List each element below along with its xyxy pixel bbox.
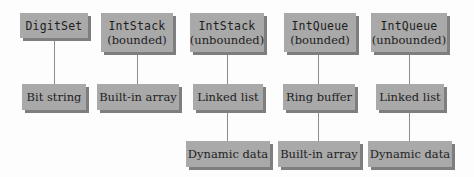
impl-box-bit-string: Bit string <box>22 84 86 110</box>
connector-linkedlist-dynamicdata-2 <box>409 110 410 141</box>
impl-label: Built-in array <box>99 90 177 104</box>
connector-intqueue-bounded-ringbuffer <box>318 52 319 84</box>
impl-box-linked-list-2: Linked list <box>376 84 444 110</box>
adt-name: DigitSet <box>26 19 83 33</box>
adt-box-intqueue-unbounded: IntQueue (unbounded) <box>371 13 447 52</box>
impl-label: Bit string <box>27 90 82 104</box>
underlying-label: Dynamic data <box>188 147 268 161</box>
adt-qualifier: (bounded) <box>107 33 167 47</box>
connector-intqueue-unbounded-linkedlist <box>409 52 410 84</box>
connector-linkedlist-dynamicdata-1 <box>227 110 228 141</box>
adt-qualifier: (bounded) <box>290 33 350 47</box>
adt-box-digitset: DigitSet <box>20 13 88 38</box>
impl-box-ring-buffer: Ring buffer <box>283 84 355 110</box>
connector-intstack-unbounded-linkedlist <box>227 52 228 84</box>
underlying-label: Dynamic data <box>370 147 450 161</box>
diagram-canvas: DigitSet IntStack (bounded) IntStack (un… <box>0 0 474 177</box>
underlying-box-dynamic-data-1: Dynamic data <box>186 141 270 167</box>
adt-name: IntQueue <box>292 19 349 33</box>
adt-name: IntStack <box>199 19 256 33</box>
underlying-box-dynamic-data-2: Dynamic data <box>368 141 452 167</box>
adt-qualifier: (unbounded) <box>190 33 264 47</box>
adt-qualifier: (unbounded) <box>372 33 446 47</box>
impl-box-builtin-array: Built-in array <box>97 84 179 110</box>
connector-intstack-bounded-array <box>137 52 138 84</box>
adt-name: IntQueue <box>381 19 438 33</box>
adt-name: IntStack <box>109 19 166 33</box>
impl-label: Ring buffer <box>286 90 352 104</box>
adt-box-intstack-bounded: IntStack (bounded) <box>101 13 173 52</box>
impl-label: Linked list <box>379 90 440 104</box>
underlying-box-builtin-array: Built-in array <box>278 141 360 167</box>
connector-ringbuffer-array <box>318 110 319 141</box>
connector-digitset-bitstring <box>54 38 55 84</box>
adt-box-intqueue-bounded: IntQueue (bounded) <box>284 13 356 52</box>
underlying-label: Built-in array <box>280 147 358 161</box>
adt-box-intstack-unbounded: IntStack (unbounded) <box>190 13 264 52</box>
impl-label: Linked list <box>197 90 258 104</box>
impl-box-linked-list-1: Linked list <box>193 84 263 110</box>
